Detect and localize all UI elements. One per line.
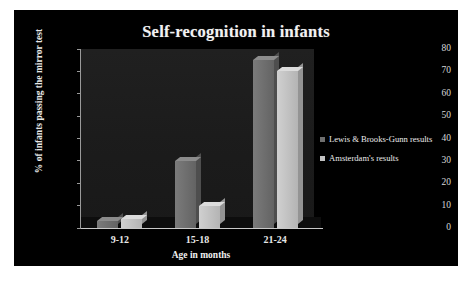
y-tick-label: 80 (442, 42, 452, 54)
legend-swatch-icon (320, 137, 325, 142)
legend-label: Amsterdam's results (329, 153, 399, 163)
y-tick-label: 50 (442, 109, 452, 121)
bar-9-12-series1[interactable] (121, 219, 142, 228)
bar-9-12-series0[interactable] (97, 221, 118, 228)
y-axis-line (80, 49, 81, 229)
bar-side-face (298, 63, 303, 224)
y-tick-label: 0 (446, 221, 451, 233)
bar-21-24-series0[interactable] (253, 60, 274, 228)
legend-swatch-icon (320, 156, 325, 161)
bar-front-face (175, 161, 196, 228)
y-tick-line (77, 116, 81, 117)
y-axis-title: % of infants passing the mirror test (34, 16, 44, 186)
y-tick-line (77, 205, 81, 206)
legend-item[interactable]: Amsterdam's results (320, 153, 456, 163)
x-tick-label: 15-18 (168, 234, 228, 245)
chart-screenshot: Self-recognition in infants 010203040506… (0, 0, 473, 284)
bar-front-face (97, 221, 118, 228)
legend-label: Lewis & Brooks-Gunn results (329, 134, 432, 144)
bar-front-face (253, 60, 274, 228)
bar-front-face (199, 206, 220, 228)
y-tick-label: 70 (442, 64, 452, 76)
bar-15-18-series1[interactable] (199, 206, 220, 228)
y-tick-label: 20 (442, 176, 452, 188)
y-tick-line (77, 138, 81, 139)
chart-panel: Self-recognition in infants 010203040506… (14, 10, 458, 266)
bar-top-face (199, 202, 225, 206)
y-tick-line (77, 183, 81, 184)
x-tick-label: 9-12 (90, 234, 150, 245)
y-tick-line (77, 160, 81, 161)
y-tick-label: 10 (442, 199, 452, 211)
bar-21-24-series1[interactable] (277, 71, 298, 228)
x-axis-line (80, 228, 323, 229)
x-axis-title: Age in months (81, 250, 321, 260)
y-tick-line (77, 228, 81, 229)
x-tick-label: 21-24 (245, 234, 305, 245)
y-tick-line (77, 71, 81, 72)
y-tick-label: 60 (442, 87, 452, 99)
bar-front-face (277, 71, 298, 228)
bar-15-18-series0[interactable] (175, 161, 196, 228)
plot-wrapper: 01020304050607080 % of infants passing t… (14, 10, 458, 266)
y-tick-line (77, 49, 81, 50)
y-tick-line (77, 93, 81, 94)
legend-item[interactable]: Lewis & Brooks-Gunn results (320, 134, 456, 144)
bar-front-face (121, 219, 142, 228)
chart-legend: Lewis & Brooks-Gunn resultsAmsterdam's r… (320, 134, 456, 172)
